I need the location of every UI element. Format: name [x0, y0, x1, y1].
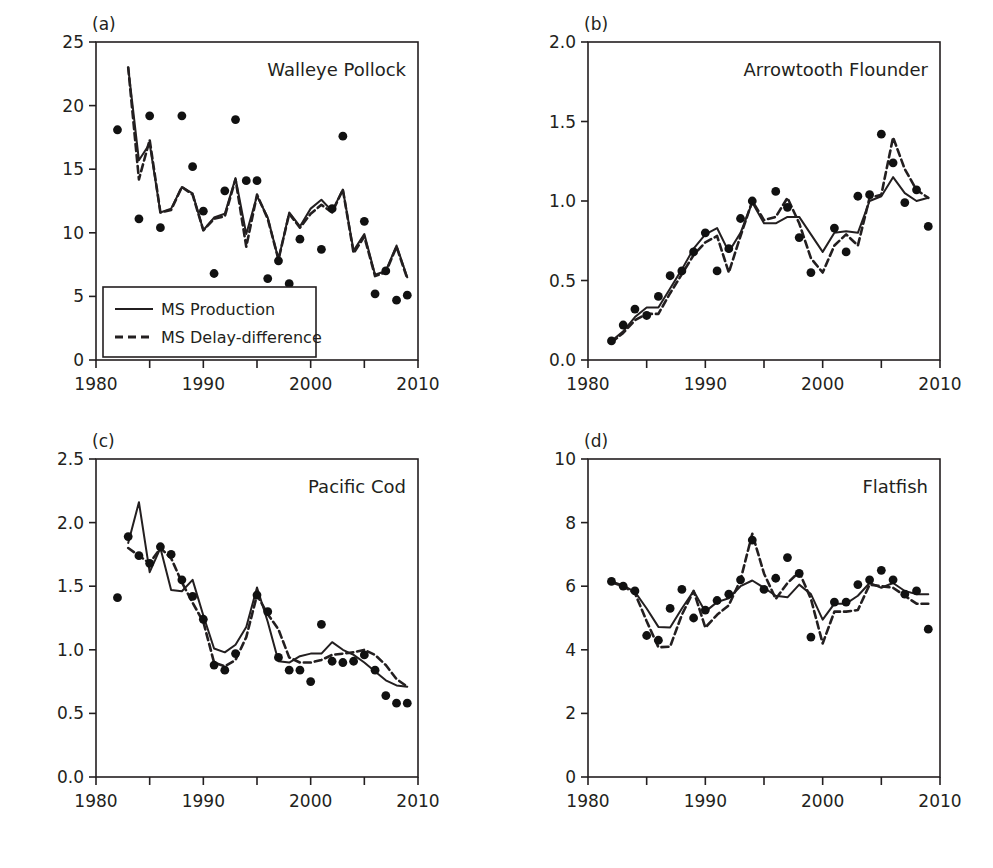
data-point: [253, 176, 262, 185]
y-tick-label: 10: [62, 223, 84, 243]
data-point: [748, 197, 757, 206]
data-point: [783, 203, 792, 212]
data-point: [285, 666, 294, 675]
panel-tag: (b): [584, 14, 608, 34]
data-point: [724, 590, 733, 599]
data-point: [113, 125, 122, 134]
y-tick-label: 6: [565, 576, 576, 596]
x-tick-label: 1980: [566, 791, 609, 811]
y-tick-label: 0.0: [57, 767, 84, 787]
data-point: [912, 587, 921, 596]
x-tick-label: 2000: [289, 791, 332, 811]
y-tick-label: 0.5: [549, 271, 576, 291]
data-point: [701, 228, 710, 237]
data-point: [689, 614, 698, 623]
data-point: [317, 245, 326, 254]
data-point: [242, 176, 251, 185]
x-tick-label: 1990: [182, 374, 225, 394]
data-point: [124, 532, 133, 541]
data-point: [349, 657, 358, 666]
data-point: [274, 256, 283, 265]
data-point: [156, 542, 165, 551]
panel-tag: (a): [92, 14, 116, 34]
data-point: [296, 235, 305, 244]
data-point: [381, 691, 390, 700]
data-point: [371, 666, 380, 675]
data-point: [713, 267, 722, 276]
data-point: [231, 649, 240, 658]
data-point: [210, 269, 219, 278]
multi-panel-biomass-figure: 05101520251980199020002010(a)Walleye Pol…: [0, 0, 993, 868]
y-tick-label: 1.5: [549, 112, 576, 132]
y-tick-label: 2.0: [549, 32, 576, 52]
data-point: [220, 666, 229, 675]
data-point: [889, 575, 898, 584]
data-point: [135, 214, 144, 223]
figure-background: [0, 0, 993, 868]
data-point: [199, 207, 208, 216]
data-point: [328, 657, 337, 666]
data-point: [924, 625, 933, 634]
data-point: [853, 192, 862, 201]
data-point: [713, 596, 722, 605]
series-title: Flatfish: [862, 476, 928, 497]
y-tick-label: 0: [73, 350, 84, 370]
data-point: [830, 598, 839, 607]
x-tick-label: 2000: [801, 791, 844, 811]
data-point: [807, 633, 816, 642]
x-tick-label: 2010: [918, 374, 961, 394]
data-point: [328, 204, 337, 213]
panel-tag: (d): [584, 431, 608, 451]
data-point: [924, 222, 933, 231]
legend: MS ProductionMS Delay-difference: [103, 287, 322, 357]
data-point: [338, 132, 347, 141]
data-point: [231, 115, 240, 124]
data-point: [748, 536, 757, 545]
data-point: [188, 162, 197, 171]
data-point: [877, 130, 886, 139]
y-tick-label: 5: [73, 286, 84, 306]
data-point: [830, 224, 839, 233]
y-tick-label: 4: [565, 640, 576, 660]
data-point: [338, 658, 347, 667]
data-point: [654, 292, 663, 301]
data-point: [392, 296, 401, 305]
data-point: [760, 585, 769, 594]
x-tick-label: 2010: [918, 791, 961, 811]
data-point: [689, 247, 698, 256]
data-point: [210, 661, 219, 670]
data-point: [145, 111, 154, 120]
data-point: [865, 190, 874, 199]
data-point: [900, 590, 909, 599]
data-point: [392, 699, 401, 708]
x-tick-label: 1990: [182, 791, 225, 811]
y-tick-label: 25: [62, 32, 84, 52]
data-point: [677, 267, 686, 276]
data-point: [360, 650, 369, 659]
x-tick-label: 2010: [396, 374, 439, 394]
data-point: [253, 591, 262, 600]
x-tick-label: 2000: [801, 374, 844, 394]
data-point: [113, 593, 122, 602]
series-title: Arrowtooth Flounder: [744, 59, 929, 80]
data-point: [619, 582, 628, 591]
y-tick-label: 20: [62, 96, 84, 116]
x-tick-label: 2010: [396, 791, 439, 811]
data-point: [889, 158, 898, 167]
data-point: [654, 636, 663, 645]
data-point: [274, 653, 283, 662]
data-point: [795, 569, 804, 578]
data-point: [771, 187, 780, 196]
y-tick-label: 2.0: [57, 513, 84, 533]
y-tick-label: 2: [565, 703, 576, 723]
data-point: [795, 233, 804, 242]
data-point: [771, 574, 780, 583]
legend-label-delay-difference: MS Delay-difference: [161, 328, 322, 347]
data-point: [853, 580, 862, 589]
data-point: [177, 575, 186, 584]
data-point: [607, 337, 616, 346]
data-point: [403, 291, 412, 300]
panel-tag: (c): [92, 431, 115, 451]
data-point: [701, 606, 710, 615]
y-tick-label: 0: [565, 767, 576, 787]
